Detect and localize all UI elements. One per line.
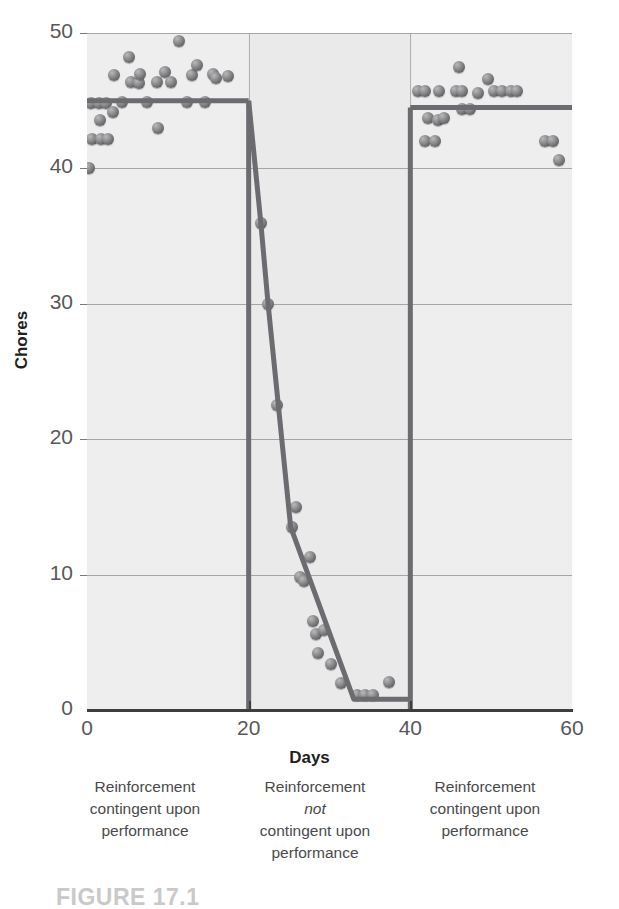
phase-caption-1: Reinforcementcontingent uponperformance xyxy=(60,776,230,864)
y-tick-label-10: 10 xyxy=(21,561,73,585)
caption-line: performance xyxy=(64,820,226,842)
y-tick-label-20: 20 xyxy=(21,425,73,449)
x-tick-mark-40 xyxy=(410,701,412,710)
caption-line: not xyxy=(234,798,396,820)
caption-line: contingent upon xyxy=(234,820,396,842)
caption-line: contingent upon xyxy=(64,798,226,820)
caption-line: Reinforcement xyxy=(64,776,226,798)
caption-line: performance xyxy=(404,820,566,842)
x-tick-label-60: 60 xyxy=(542,716,602,740)
y-tick-mark-40 xyxy=(80,168,87,169)
y-tick-mark-30 xyxy=(80,304,87,305)
trend-line xyxy=(87,33,572,710)
caption-line: contingent upon xyxy=(404,798,566,820)
phase-caption-2: Reinforcementnotcontingent uponperforman… xyxy=(230,776,400,864)
y-tick-mark-20 xyxy=(80,439,87,440)
x-axis-title: Days xyxy=(0,748,619,768)
x-axis-line xyxy=(87,709,573,712)
y-tick-label-40: 40 xyxy=(21,154,73,178)
x-tick-label-40: 40 xyxy=(380,716,440,740)
x-tick-mark-20 xyxy=(249,701,251,710)
y-tick-mark-10 xyxy=(80,575,87,576)
y-tick-label-50: 50 xyxy=(21,19,73,43)
phase-caption-3: Reinforcementcontingent uponperformance xyxy=(400,776,570,864)
phase-captions: Reinforcementcontingent uponperformanceR… xyxy=(60,776,570,864)
y-axis-title: Chores xyxy=(12,280,32,400)
caption-line: performance xyxy=(234,842,396,864)
y-tick-label-0: 0 xyxy=(21,696,73,720)
x-tick-label-20: 20 xyxy=(219,716,279,740)
trend-segment-2 xyxy=(249,101,409,699)
y-tick-mark-50 xyxy=(80,33,87,34)
figure-number-label: FIGURE 17.1 xyxy=(56,884,200,909)
plot-area xyxy=(87,33,572,710)
caption-line: Reinforcement xyxy=(404,776,566,798)
caption-line: Reinforcement xyxy=(234,776,396,798)
